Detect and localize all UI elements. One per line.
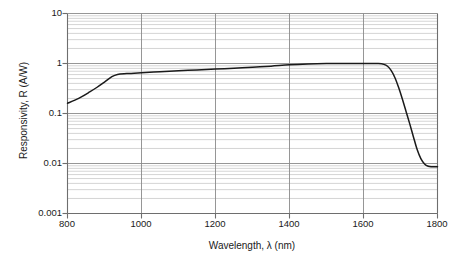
- y-tick-label-1: 1: [28, 58, 62, 68]
- responsivity-chart-figure: 10 1 0.1 0.01 0.001 800 1000 1200 1400 1…: [0, 0, 455, 263]
- y-axis-title: Responsivity, R (A/W): [18, 41, 29, 181]
- x-tick-label-1600: 1600: [343, 219, 383, 229]
- x-tick-label-800: 800: [47, 219, 87, 229]
- x-tick-label-1200: 1200: [195, 219, 235, 229]
- y-tick-label-0.01: 0.01: [28, 158, 62, 168]
- x-tick-label-1000: 1000: [121, 219, 161, 229]
- minor-gridlines-group: [68, 16, 438, 199]
- x-tick-label-1800: 1800: [417, 219, 455, 229]
- y-tick-label-0.1: 0.1: [28, 108, 62, 118]
- y-tick-label-0.001: 0.001: [28, 208, 62, 218]
- responsivity-curve: [68, 63, 438, 166]
- y-tick-label-10: 10: [28, 8, 62, 18]
- x-axis-title: Wavelength, λ (nm): [67, 240, 437, 251]
- x-tick-label-1400: 1400: [269, 219, 309, 229]
